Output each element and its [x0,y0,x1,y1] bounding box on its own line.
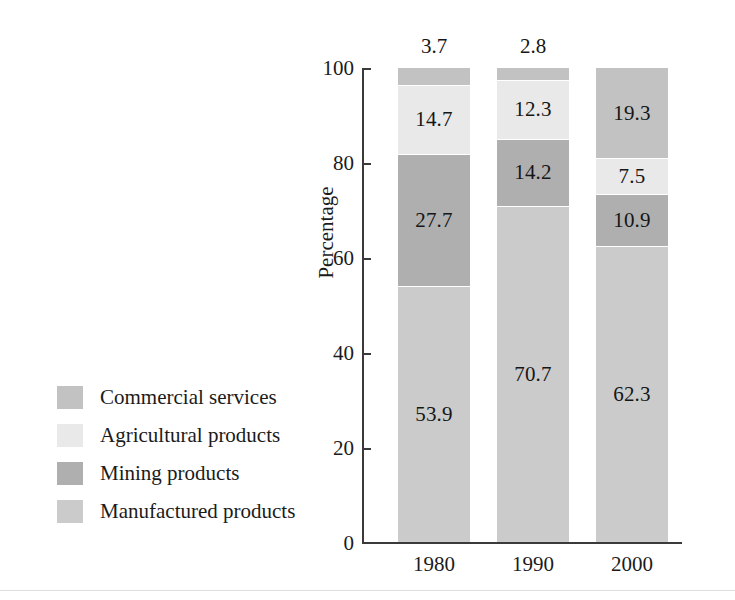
legend-label: Agricultural products [100,425,280,446]
bar-segment-commercial-services-1980[interactable] [398,68,470,86]
x-tick-label-2000: 2000 [596,552,668,576]
y-tick-label-20: 20 [298,438,354,459]
bar-segment-commercial-services-1990[interactable] [497,68,569,81]
bar-segment-value: 12.3 [514,99,552,120]
bar-segment-agricultural-products-1990[interactable]: 12.3 [497,81,569,139]
y-tick-80 [362,163,371,165]
bar-segment-agricultural-products-1980[interactable]: 14.7 [398,86,470,156]
chart-legend: Commercial services Agricultural product… [57,378,295,530]
legend-swatch-icon [57,462,83,485]
y-tick-60 [362,258,371,260]
y-tick-label-80: 80 [298,153,354,174]
bar-segment-value: 27.7 [415,210,453,231]
x-axis-line [362,542,682,544]
y-tick-20 [362,448,371,450]
bar-segment-mining-products-1990[interactable]: 14.2 [497,140,569,207]
bar-segment-agricultural-products-2000[interactable]: 7.5 [596,159,668,195]
bar-segment-manufactured-products-2000[interactable]: 62.3 [596,247,668,542]
x-tick-label-1980: 1980 [398,552,470,576]
legend-item-agricultural-products[interactable]: Agricultural products [57,416,295,454]
stacked-bar-1990[interactable]: 12.314.270.7 [497,68,569,542]
stacked-bar-2000[interactable]: 19.37.510.962.3 [596,68,668,542]
y-tick-100 [362,68,371,70]
stacked-bar-1980[interactable]: 14.727.753.9 [398,68,470,542]
bar-segment-value: 14.7 [415,109,453,130]
bar-segment-value: 53.9 [415,404,453,425]
legend-swatch-icon [57,424,83,447]
legend-swatch-icon [57,500,83,523]
y-tick-label-0: 0 [298,533,354,554]
bar-segment-commercial-services-2000[interactable]: 19.3 [596,68,668,159]
bar-segment-value: 14.2 [514,162,552,183]
legend-label: Mining products [100,463,239,484]
bar-segment-value: 19.3 [613,103,651,124]
y-tick-label-40: 40 [298,343,354,364]
stacked-bar-chart: Percentage 100 80 60 40 20 0 14.727.753.… [0,0,735,600]
legend-item-manufactured-products[interactable]: Manufactured products [57,492,295,530]
legend-item-mining-products[interactable]: Mining products [57,454,295,492]
bar-segment-value: 62.3 [613,384,651,405]
bar-total-label-1990: 2.8 [497,36,569,57]
bar-segment-value: 10.9 [613,210,651,231]
legend-label: Commercial services [100,387,277,408]
y-axis-line [362,68,364,544]
bar-segment-value: 70.7 [514,364,552,385]
scan-artifact-line [0,590,735,591]
legend-item-commercial-services[interactable]: Commercial services [57,378,295,416]
x-tick-label-1990: 1990 [497,552,569,576]
legend-label: Manufactured products [100,501,295,522]
y-axis-title: Percentage [316,153,337,313]
y-tick-label-100: 100 [298,58,354,79]
legend-swatch-icon [57,386,83,409]
bar-segment-manufactured-products-1990[interactable]: 70.7 [497,207,569,542]
bar-segment-mining-products-1980[interactable]: 27.7 [398,155,470,286]
bar-segment-value: 7.5 [619,166,646,187]
bar-segment-mining-products-2000[interactable]: 10.9 [596,195,668,247]
bar-segment-manufactured-products-1980[interactable]: 53.9 [398,287,470,542]
bar-total-label-1980: 3.7 [398,36,470,57]
y-tick-label-60: 60 [298,248,354,269]
y-tick-40 [362,353,371,355]
